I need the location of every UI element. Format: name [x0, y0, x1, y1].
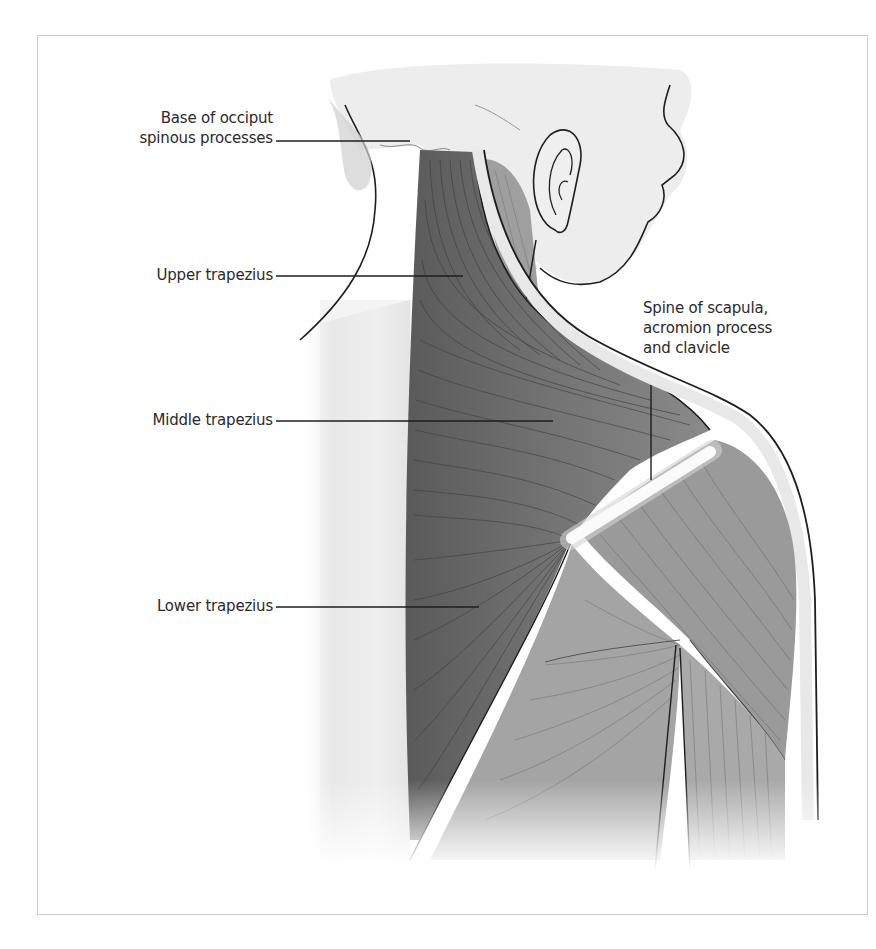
label-spine-of-scapula-line1: Spine of scapula,: [643, 298, 772, 318]
label-lower-trapezius: Lower trapezius: [157, 596, 273, 616]
trapezius-illustration: [0, 0, 876, 949]
label-middle-trapezius-text: Middle trapezius: [153, 410, 273, 430]
bottom-fade: [280, 780, 840, 870]
back-skin: [300, 300, 420, 860]
label-base-of-occiput: Base of occiput spinous processes: [139, 108, 273, 148]
label-base-of-occiput-line1: Base of occiput: [139, 108, 273, 128]
label-spine-of-scapula-line2: acromion process: [643, 318, 772, 338]
label-middle-trapezius: Middle trapezius: [153, 410, 273, 430]
label-spine-of-scapula: Spine of scapula, acromion process and c…: [643, 298, 772, 358]
label-base-of-occiput-line2: spinous processes: [139, 128, 273, 148]
label-upper-trapezius-text: Upper trapezius: [156, 265, 273, 285]
label-lower-trapezius-text: Lower trapezius: [157, 596, 273, 616]
label-upper-trapezius: Upper trapezius: [156, 265, 273, 285]
label-spine-of-scapula-line3: and clavicle: [643, 338, 772, 358]
